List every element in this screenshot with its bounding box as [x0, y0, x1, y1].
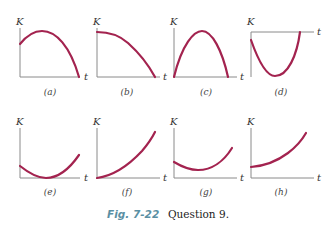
axes — [174, 28, 237, 77]
panel-label-c: (c) — [200, 87, 213, 97]
panel-label-a: (a) — [44, 87, 57, 97]
y-axis-label: K — [169, 16, 178, 27]
axes — [97, 128, 160, 178]
x-axis-label: t — [317, 172, 322, 183]
curve-g — [174, 148, 232, 170]
y-axis-label: K — [92, 116, 101, 127]
y-axis-label: K — [15, 116, 24, 127]
y-axis-label: K — [15, 16, 24, 27]
panel-e: K t (e) — [15, 116, 89, 197]
x-axis-label: t — [240, 172, 245, 183]
panel-g: K t (g) — [169, 116, 245, 197]
panel-b: K t (b) — [92, 16, 168, 97]
y-axis-label: K — [246, 16, 255, 27]
curve-h — [251, 133, 306, 167]
y-axis-label: K — [169, 116, 178, 127]
panel-h: K t (h) — [246, 116, 322, 197]
curve-f — [97, 132, 155, 178]
y-axis-label: K — [92, 16, 101, 27]
axes — [251, 32, 314, 77]
x-axis-label: t — [163, 71, 168, 82]
curve-c — [174, 31, 228, 77]
curve-a — [20, 31, 79, 77]
panel-c: K t (c) — [169, 16, 245, 97]
x-axis-label: t — [84, 172, 89, 183]
figure-7-22: K t (a) K t (b) K t (c) K t (d) K t (e) — [0, 0, 331, 229]
figure-caption: Fig. 7-22 Question 9. — [107, 208, 229, 220]
panel-label-d: (d) — [275, 87, 288, 97]
curve-d — [251, 32, 300, 76]
panel-d: K t (d) — [246, 16, 322, 97]
panel-f: K t (f) — [92, 116, 168, 197]
x-axis-label: t — [163, 172, 168, 183]
curve-e — [20, 155, 79, 178]
panel-label-g: (g) — [200, 187, 213, 197]
panel-label-e: (e) — [44, 187, 57, 197]
figure-number: Fig. 7-22 — [107, 208, 159, 220]
caption-text: Question 9. — [168, 208, 229, 220]
panel-label-b: (b) — [121, 87, 134, 97]
x-axis-label: t — [84, 71, 89, 82]
y-axis-label: K — [246, 116, 255, 127]
x-axis-label: t — [317, 26, 322, 37]
x-axis-label: t — [240, 71, 245, 82]
panel-label-h: (h) — [275, 187, 288, 197]
axes — [20, 128, 80, 178]
panel-label-f: (f) — [122, 187, 133, 197]
curve-b — [97, 32, 155, 77]
panel-a: K t (a) — [15, 16, 89, 97]
